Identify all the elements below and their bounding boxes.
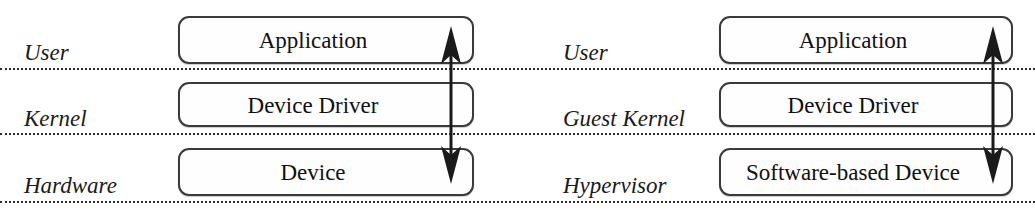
bidirectional-arrow <box>436 24 466 186</box>
box-device-driver[interactable]: Device Driver <box>178 82 474 127</box>
box-device-driver-label: Device Driver <box>180 93 472 116</box>
layer-label-user: User <box>24 41 69 64</box>
box-device-driver-label: Device Driver <box>721 93 1011 116</box>
box-software-based-device[interactable]: Software-based Device <box>719 148 1013 196</box>
layer-label-user: User <box>563 41 608 64</box>
separator-line-kernel-hardware <box>0 133 1035 135</box>
box-application[interactable]: Application <box>719 16 1013 64</box>
separator-line-user-kernel <box>0 68 1035 70</box>
layer-label-guest-kernel: Guest Kernel <box>563 107 685 130</box>
diagram-canvas: User Kernel Hardware Application Device … <box>0 0 1035 219</box>
layer-label-hardware: Hardware <box>24 174 117 197</box>
box-application-label: Application <box>180 29 472 52</box>
layer-label-kernel: Kernel <box>24 107 87 130</box>
box-device[interactable]: Device <box>178 148 474 196</box>
box-device-label: Device <box>180 161 472 184</box>
box-application-label: Application <box>721 29 1011 52</box>
bidirectional-arrow <box>978 24 1008 186</box>
separator-line-bottom <box>0 201 1035 203</box>
box-device-driver[interactable]: Device Driver <box>719 82 1013 127</box>
box-application[interactable]: Application <box>178 16 474 64</box>
layer-label-hypervisor: Hypervisor <box>563 174 666 197</box>
box-software-based-device-label: Software-based Device <box>721 161 1011 184</box>
